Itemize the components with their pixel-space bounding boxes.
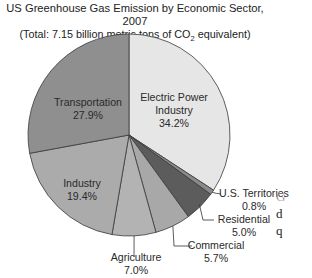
label-residential: Residential5.0% bbox=[218, 213, 270, 238]
label-agriculture: Agriculture7.0% bbox=[111, 251, 162, 276]
pie-chart: Electric PowerIndustry34.2%Industry19.4%… bbox=[0, 0, 312, 278]
label-industry: Industry19.4% bbox=[63, 177, 101, 202]
label-commercial: Commercial5.7% bbox=[188, 239, 245, 264]
side-text-3: q bbox=[276, 222, 283, 239]
pie-slice-transportation bbox=[28, 34, 129, 153]
side-text-1: G bbox=[276, 188, 285, 205]
leader-line bbox=[199, 204, 214, 220]
side-text-2: d bbox=[276, 205, 283, 222]
